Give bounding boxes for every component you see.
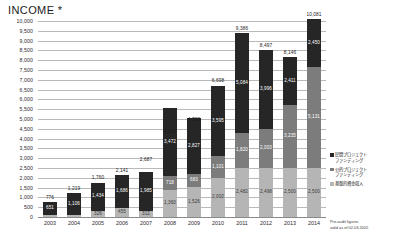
bar-segment[interactable]: 2,003 bbox=[259, 129, 274, 168]
gridline bbox=[38, 217, 326, 218]
y-axis-tick-label: 0 bbox=[30, 214, 33, 220]
y-axis-tick-label: 9,500 bbox=[20, 28, 33, 34]
y-axis-tick-label: 7,500 bbox=[20, 67, 33, 73]
bar-segment[interactable]: 1,985 bbox=[139, 172, 154, 211]
y-axis: 05001,0001,5002,0002,5003,0003,5004,0004… bbox=[0, 21, 36, 217]
x-axis-tick-label: 2009 bbox=[188, 220, 200, 226]
y-axis-tick-label: 1,000 bbox=[20, 194, 33, 200]
bar-total-label: 8,146 bbox=[284, 51, 296, 56]
legend-item-label: 民間プロジェクトファンディング bbox=[335, 152, 367, 164]
bar-total-label: 1,219 bbox=[68, 187, 80, 192]
bar-total-label: 10,081 bbox=[306, 13, 321, 18]
bar-segment-value-label: 326 bbox=[94, 212, 102, 217]
x-axis-tick-label: 2010 bbox=[212, 220, 224, 226]
y-axis-tick-label: 3,000 bbox=[20, 155, 33, 161]
bar-segment-value-label: 2,500 bbox=[284, 190, 296, 195]
bar-segment[interactable]: 1,360 bbox=[163, 190, 178, 217]
legend-item[interactable]: 基盤的資金収入 bbox=[330, 181, 392, 187]
bar-segment[interactable]: 2,827 bbox=[187, 118, 202, 173]
bar-group[interactable]: 2,4982,0033,9968,497 bbox=[259, 50, 274, 217]
bar-group[interactable]: 3261,4341,760 bbox=[91, 183, 106, 217]
legend-swatch-icon bbox=[330, 168, 334, 172]
bar-segment[interactable]: 5,131 bbox=[307, 67, 322, 168]
x-axis-tick-label: 2003 bbox=[44, 220, 56, 226]
y-axis-tick-label: 8,000 bbox=[20, 57, 33, 63]
bar-group[interactable]: 1,1061,219 bbox=[67, 193, 82, 217]
bar-segment[interactable]: 2,450 bbox=[307, 19, 322, 67]
legend-item-label: 公的プロジェクトファンディング bbox=[335, 167, 367, 179]
bar-segment[interactable]: 1,686 bbox=[115, 175, 130, 208]
bar-segment-value-label: 2,002 bbox=[212, 195, 224, 200]
bar-segment[interactable]: 1,820 bbox=[235, 133, 250, 169]
bar-segment-value-label: 3,472 bbox=[164, 140, 176, 145]
bar-total-label: 4,136 bbox=[164, 130, 176, 135]
bar-segment[interactable]: 2,500 bbox=[283, 168, 298, 217]
y-axis-tick-label: 2,500 bbox=[20, 165, 33, 171]
bar-segment-value-label: 3,595 bbox=[212, 119, 224, 124]
x-axis-tick-label: 2004 bbox=[68, 220, 80, 226]
bar-segment-value-label: 3,235 bbox=[284, 134, 296, 139]
legend-item[interactable]: 民間プロジェクトファンディング bbox=[330, 152, 392, 164]
bar-segment[interactable]: 3,595 bbox=[211, 86, 226, 156]
bar-segment[interactable]: 2,002 bbox=[211, 178, 226, 217]
footnote: Pre-audit figures valid as of 02.03.2005 bbox=[330, 219, 392, 231]
bar-group[interactable]: 1,5266832,8274,730 bbox=[187, 124, 202, 217]
bar-total-label: 9,386 bbox=[236, 27, 248, 32]
footnote-line-2: valid as of 02.03.2005 bbox=[330, 225, 392, 231]
bar-total-label: 6,698 bbox=[212, 79, 224, 84]
bar-segment-value-label: 1,434 bbox=[92, 194, 104, 199]
bar-group[interactable]: 1,3607183,4724,136 bbox=[163, 136, 178, 217]
bar-group[interactable]: 2,5003,2352,4118,146 bbox=[283, 57, 298, 217]
bar-segment[interactable]: 3,235 bbox=[283, 105, 298, 168]
bar-total-label: 776 bbox=[46, 196, 54, 201]
bar-segment-value-label: 1,686 bbox=[116, 189, 128, 194]
bar-segment[interactable]: 1,106 bbox=[67, 193, 82, 215]
bar-segment-value-label: 2,003 bbox=[260, 146, 272, 151]
y-axis-tick-label: 500 bbox=[24, 204, 33, 210]
bar-segment[interactable]: 1,526 bbox=[187, 187, 202, 217]
bar-group[interactable]: 2,0021,1013,5956,698 bbox=[211, 86, 226, 217]
y-axis-tick-label: 6,500 bbox=[20, 87, 33, 93]
bar-total-label: 2,141 bbox=[116, 169, 128, 174]
bar-segment[interactable]: 5,084 bbox=[235, 33, 250, 133]
bar-group[interactable]: 651776 bbox=[43, 202, 58, 217]
bar-segment[interactable]: 455 bbox=[115, 208, 130, 217]
bar-segment[interactable]: 312 bbox=[139, 211, 154, 217]
x-axis-tick-label: 2005 bbox=[92, 220, 104, 226]
bar-segment[interactable]: 718 bbox=[163, 176, 178, 190]
bar-group[interactable]: 2,4821,8205,0849,386 bbox=[235, 33, 250, 217]
bar-series-container: 6517761,1061,2193261,4341,7604551,6862,1… bbox=[38, 21, 326, 217]
bar-segment[interactable] bbox=[67, 215, 82, 217]
bar-segment-value-label: 5,131 bbox=[308, 115, 320, 120]
bar-segment-value-label: 2,498 bbox=[260, 190, 272, 195]
y-axis-tick-label: 5,500 bbox=[20, 106, 33, 112]
legend-swatch-icon bbox=[330, 153, 334, 157]
y-axis-tick-label: 6,000 bbox=[20, 96, 33, 102]
bar-segment-value-label: 1,820 bbox=[236, 148, 248, 153]
bar-segment[interactable]: 683 bbox=[187, 174, 202, 187]
bar-segment-value-label: 718 bbox=[166, 181, 174, 186]
page-title: INCOME * bbox=[8, 4, 63, 16]
bar-segment[interactable]: 2,482 bbox=[235, 168, 250, 217]
bar-segment[interactable]: 651 bbox=[43, 202, 58, 215]
bar-segment[interactable]: 1,434 bbox=[91, 183, 106, 211]
bar-group[interactable]: 2,5005,1312,45010,081 bbox=[307, 19, 322, 217]
bar-segment-value-label: 5,084 bbox=[236, 81, 248, 86]
y-axis-tick-label: 7,000 bbox=[20, 77, 33, 83]
bar-group[interactable]: 3121,9852,687 bbox=[139, 164, 154, 217]
bar-segment[interactable] bbox=[43, 215, 58, 217]
x-axis-tick-label: 2014 bbox=[308, 220, 320, 226]
y-axis-tick-label: 8,500 bbox=[20, 47, 33, 53]
bar-group[interactable]: 4551,6862,141 bbox=[115, 175, 130, 217]
bar-segment[interactable]: 2,411 bbox=[283, 57, 298, 104]
bar-segment[interactable]: 1,101 bbox=[211, 156, 226, 178]
bar-segment[interactable]: 3,996 bbox=[259, 50, 274, 128]
bar-segment-value-label: 1,101 bbox=[212, 165, 224, 170]
legend-item[interactable]: 公的プロジェクトファンディング bbox=[330, 167, 392, 179]
bar-segment-value-label: 3,996 bbox=[260, 87, 272, 92]
bar-segment-value-label: 2,450 bbox=[308, 41, 320, 46]
bar-segment[interactable]: 2,498 bbox=[259, 168, 274, 217]
bar-segment[interactable]: 3,472 bbox=[163, 108, 178, 176]
bar-segment[interactable]: 2,500 bbox=[307, 168, 322, 217]
bar-segment[interactable]: 326 bbox=[91, 211, 106, 217]
